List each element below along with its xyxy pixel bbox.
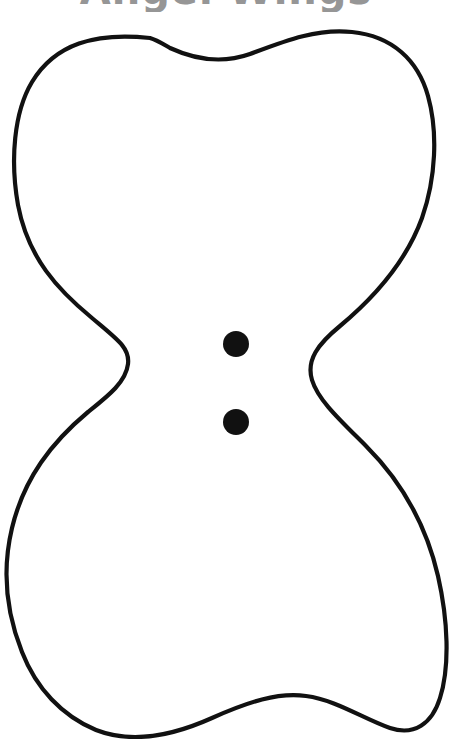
angel-wings-artwork	[0, 0, 452, 739]
upper-dot	[223, 331, 249, 357]
lower-dot	[223, 409, 249, 435]
template-page: Angel Wings	[0, 0, 452, 739]
page-title: Angel Wings	[0, 0, 452, 10]
wing-outline-path	[7, 31, 447, 737]
page-title-band: Angel Wings	[0, 0, 452, 12]
